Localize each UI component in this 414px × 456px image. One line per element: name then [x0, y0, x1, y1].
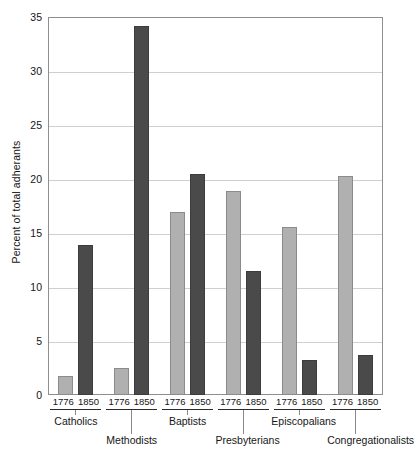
group-stem — [131, 410, 132, 434]
group-stem — [243, 410, 244, 434]
x-group-episcopalians: 17761850Episcopalians — [271, 396, 327, 427]
y-tick-label: 25 — [8, 120, 42, 131]
year-label-row: 17761850 — [271, 396, 327, 408]
group-name-label: Baptists — [160, 415, 216, 427]
year-label-row: 17761850 — [327, 396, 383, 408]
year-label-row: 17761850 — [160, 396, 216, 408]
gridline — [49, 342, 382, 343]
gridline — [49, 180, 382, 181]
gridline — [49, 126, 382, 127]
x-group-catholics: 17761850Catholics — [48, 396, 104, 427]
x-axis-labels: 17761850Catholics17761850Methodists17761… — [48, 396, 383, 456]
gridline — [49, 72, 382, 73]
y-tick-label: 20 — [8, 174, 42, 185]
x-group-congregationalists: 17761850Congregationalists — [327, 396, 383, 446]
year-label-1776: 1776 — [276, 396, 297, 408]
x-group-presbyterians: 17761850Presbyterians — [216, 396, 272, 446]
year-label-row: 17761850 — [216, 396, 272, 408]
gridline — [49, 288, 382, 289]
x-group-methodists: 17761850Methodists — [104, 396, 160, 446]
group-stem — [355, 410, 356, 434]
bar-chart: Percent of total adherants 0510152025303… — [0, 0, 414, 456]
year-label-1776: 1776 — [220, 396, 241, 408]
year-label-1850: 1850 — [357, 396, 378, 408]
plot-area — [48, 17, 383, 395]
group-name-label: Episcopalians — [271, 415, 327, 427]
x-group-baptists: 17761850Baptists — [160, 396, 216, 427]
year-label-1776: 1776 — [332, 396, 353, 408]
y-tick-label: 15 — [8, 228, 42, 239]
y-tick-label: 35 — [8, 12, 42, 23]
year-label-1850: 1850 — [245, 396, 266, 408]
y-tick-label: 30 — [8, 66, 42, 77]
year-label-1776: 1776 — [53, 396, 74, 408]
group-name-label: Congregationalists — [327, 434, 383, 446]
y-axis-ticks: 05101520253035 — [0, 17, 42, 395]
year-label-1850: 1850 — [134, 396, 155, 408]
year-label-1850: 1850 — [190, 396, 211, 408]
year-label-row: 17761850 — [48, 396, 104, 408]
year-label-row: 17761850 — [104, 396, 160, 408]
y-tick-label: 10 — [8, 282, 42, 293]
group-name-label: Catholics — [48, 415, 104, 427]
y-tick-label: 5 — [8, 336, 42, 347]
gridline — [49, 234, 382, 235]
group-name-label: Presbyterians — [216, 434, 272, 446]
year-label-1850: 1850 — [78, 396, 99, 408]
year-label-1776: 1776 — [164, 396, 185, 408]
year-label-1850: 1850 — [301, 396, 322, 408]
group-name-label: Methodists — [104, 434, 160, 446]
year-label-1776: 1776 — [109, 396, 130, 408]
y-tick-label: 0 — [8, 390, 42, 401]
